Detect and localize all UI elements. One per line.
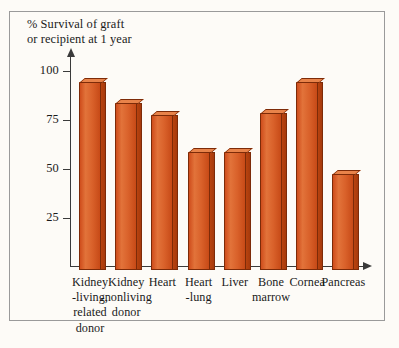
bar-6 <box>260 113 282 270</box>
y-axis-line <box>70 55 71 267</box>
bar-front-face <box>332 174 354 270</box>
y-tick-75 <box>63 120 70 121</box>
bar-5 <box>224 152 246 270</box>
bar-front-face <box>188 152 210 270</box>
y-tick-50 <box>63 169 70 170</box>
bar-side-face <box>210 152 215 270</box>
bar-side-face <box>282 113 287 270</box>
bar-side-face <box>354 174 359 270</box>
y-tick-label-100: 100 <box>19 63 59 78</box>
y-tick-label-75: 75 <box>19 112 59 127</box>
bar-front-face <box>224 152 246 270</box>
y-tick-25 <box>63 218 70 219</box>
bar-3 <box>151 115 173 270</box>
y-axis-arrow-icon <box>67 48 75 57</box>
category-label-8: Pancreas <box>307 275 379 290</box>
bar-side-face <box>101 82 106 270</box>
bar-side-face <box>173 115 178 270</box>
plot-area: 255075100 Kidney -living, related donorK… <box>70 55 372 270</box>
bar-side-face <box>246 152 251 270</box>
bar-side-face <box>318 82 323 270</box>
y-tick-label-25: 25 <box>19 210 59 225</box>
bar-1 <box>79 82 101 270</box>
y-tick-label-50: 50 <box>19 161 59 176</box>
bar-side-face <box>137 103 142 270</box>
bar-front-face <box>115 103 137 270</box>
figure-canvas: % Survival of graft or recipient at 1 ye… <box>0 0 399 348</box>
chart-title: % Survival of graft or recipient at 1 ye… <box>27 17 132 46</box>
bar-front-face <box>79 82 101 270</box>
y-tick-100 <box>63 71 70 72</box>
bar-front-face <box>151 115 173 270</box>
bar-8 <box>332 174 354 270</box>
bar-front-face <box>296 82 318 270</box>
bar-2 <box>115 103 137 270</box>
bar-4 <box>188 152 210 270</box>
bar-7 <box>296 82 318 270</box>
x-axis-arrow-icon <box>363 262 372 270</box>
bar-front-face <box>260 113 282 270</box>
